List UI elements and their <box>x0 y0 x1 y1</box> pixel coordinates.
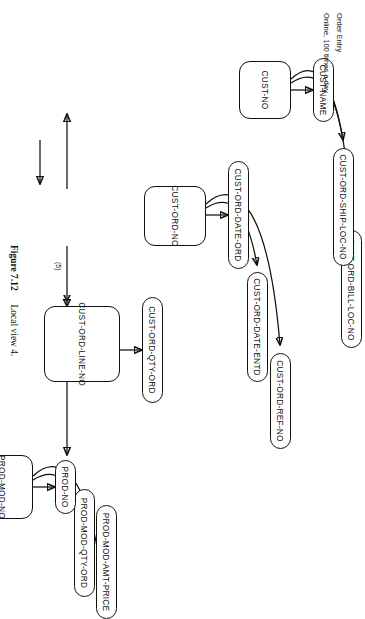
node-prod-no[interactable]: PROD-NO <box>55 460 76 514</box>
node-cust-ord-date-entd[interactable]: CUST-ORD-DATE-ENTD <box>247 272 268 382</box>
node-prod-mod-qty-ord[interactable]: PROD-MOD-QTY-ORD <box>74 489 95 597</box>
figure-number: Figure 7.12 <box>9 245 19 291</box>
node-prod-mod-no[interactable]: PROD-MOD-NO <box>0 455 33 519</box>
figure-caption: Figure 7.12 Local view 4. <box>9 245 19 356</box>
edge-label-cardinality: (5) <box>55 262 62 271</box>
node-cust-ord-ref-no[interactable]: CUST-ORD-REF-NO <box>270 353 291 449</box>
node-cust-ord-ship-loc-no[interactable]: CUST-ORD-SHIP-LOC-NO <box>333 148 354 266</box>
node-cust-ord-date-ord[interactable]: CUST-ORD-DATE-ORD <box>228 161 249 269</box>
node-cust-ord-qty-ord[interactable]: CUST-ORD-QTY-ORD <box>142 297 163 403</box>
figure-caption-text: Local view 4. <box>9 305 19 357</box>
node-cust-ord-no[interactable]: CUST-ORD-NO <box>144 186 206 246</box>
node-cust-no[interactable]: CUST-NO <box>239 61 291 119</box>
node-prod-mod-amt-price[interactable]: PROD-MOD-AMT-PRICE <box>96 505 117 619</box>
note-order-entry: Order Entry <box>334 13 345 52</box>
note-frequency: Online, 100 times a day <box>321 13 332 93</box>
node-cust-ord-line-no[interactable]: CUST-ORD-LINE-NO <box>44 306 120 382</box>
